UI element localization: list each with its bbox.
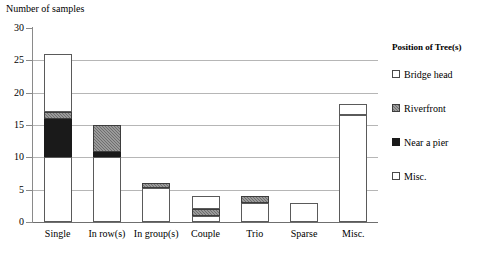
bar-segment[interactable] <box>93 125 121 152</box>
y-axis-tick-labels: 051015202530 <box>0 28 24 222</box>
legend-item-label: Bridge head <box>404 69 453 80</box>
bar-segment[interactable] <box>192 216 220 222</box>
y-axis-tick <box>26 60 32 61</box>
bar-segment[interactable] <box>192 209 220 215</box>
bar-segment[interactable] <box>241 203 269 222</box>
bar-segment[interactable] <box>339 104 367 116</box>
legend-swatch-icon <box>392 172 400 180</box>
y-axis-tick-label: 15 <box>0 120 24 130</box>
x-axis-tick-labels: SingleIn row(s)In group(s)CoupleTrioSpar… <box>33 228 378 244</box>
y-axis-tick-label: 0 <box>0 217 24 227</box>
x-axis-tick-label: Sparse <box>291 228 318 239</box>
bar-segment[interactable] <box>192 196 220 209</box>
legend-item[interactable]: Bridge head <box>392 68 490 80</box>
bar-stack[interactable] <box>290 28 318 222</box>
y-axis-tick <box>26 190 32 191</box>
legend: Position of Tree(s) Bridge headRiverfron… <box>392 42 490 204</box>
bar-stack[interactable] <box>339 28 367 222</box>
legend-item[interactable]: Misc. <box>392 170 490 182</box>
legend-swatch-icon <box>392 138 400 146</box>
bar-stack[interactable] <box>241 28 269 222</box>
legend-item-label: Misc. <box>404 171 427 182</box>
bar-segment[interactable] <box>93 157 121 222</box>
y-axis-title: Number of samples <box>6 3 84 14</box>
y-axis-tick <box>26 93 32 94</box>
y-axis-tick-label: 20 <box>0 88 24 98</box>
y-axis-tick <box>26 222 32 223</box>
bar-segment[interactable] <box>241 196 269 202</box>
bar-segment[interactable] <box>93 152 121 157</box>
legend-item[interactable]: Riverfront <box>392 102 490 114</box>
x-axis-tick-label: In group(s) <box>134 228 179 239</box>
bar-segment[interactable] <box>44 112 72 118</box>
y-axis-tick <box>26 28 32 29</box>
y-axis-tick <box>26 157 32 158</box>
x-axis-tick-label: Single <box>45 228 71 239</box>
y-axis-tick-label: 30 <box>0 23 24 33</box>
bar-stack[interactable] <box>192 28 220 222</box>
bar-segment[interactable] <box>44 119 72 158</box>
x-axis-tick-label: Trio <box>246 228 263 239</box>
y-axis-tick-label: 5 <box>0 185 24 195</box>
bar-segment[interactable] <box>142 183 170 188</box>
gridline <box>33 222 378 223</box>
bar-segment[interactable] <box>339 115 367 222</box>
x-axis-tick-label: Couple <box>191 228 220 239</box>
legend-title: Position of Tree(s) <box>392 42 490 52</box>
bar-segment[interactable] <box>290 203 318 222</box>
bar-segment[interactable] <box>142 188 170 222</box>
bar-stack[interactable] <box>44 28 72 222</box>
bar-segment[interactable] <box>44 54 72 112</box>
bar-segment[interactable] <box>44 157 72 222</box>
legend-swatch-icon <box>392 104 400 112</box>
bar-stack[interactable] <box>93 28 121 222</box>
y-axis-tick-label: 10 <box>0 152 24 162</box>
bar-stack[interactable] <box>142 28 170 222</box>
y-axis-tick-label: 25 <box>0 55 24 65</box>
plot-area <box>33 28 378 222</box>
legend-items: Bridge headRiverfrontNear a pierMisc. <box>392 68 490 182</box>
x-axis-tick-label: Misc. <box>342 228 365 239</box>
legend-item-label: Riverfront <box>404 103 446 114</box>
legend-item[interactable]: Near a pier <box>392 136 490 148</box>
legend-swatch-icon <box>392 70 400 78</box>
y-axis-tick <box>26 125 32 126</box>
chart-screenshot: Number of samples 051015202530 SingleIn … <box>0 0 492 264</box>
x-axis-tick-label: In row(s) <box>88 228 125 239</box>
legend-item-label: Near a pier <box>404 137 448 148</box>
